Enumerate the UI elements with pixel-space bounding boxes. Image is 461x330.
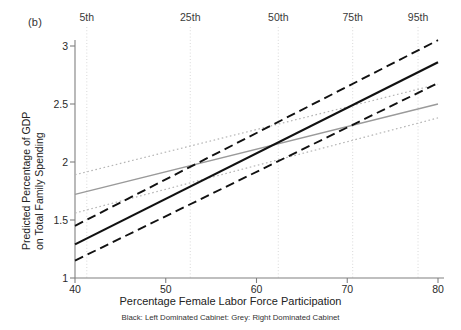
figure-panel-b: (b) 5th 25th 50th 75th 95th 1 1.5 2 2.5 … — [0, 0, 461, 330]
series-lines — [75, 40, 438, 260]
series-line-black-solid — [75, 62, 438, 244]
percentile-gridlines — [87, 27, 418, 278]
series-line-grey-dotted — [75, 84, 438, 174]
axis-lines — [70, 40, 444, 283]
plot-area — [0, 0, 461, 330]
series-line-grey-solid — [75, 104, 438, 194]
series-line-black-dashed — [75, 40, 438, 226]
series-line-black-dashed — [75, 83, 438, 260]
